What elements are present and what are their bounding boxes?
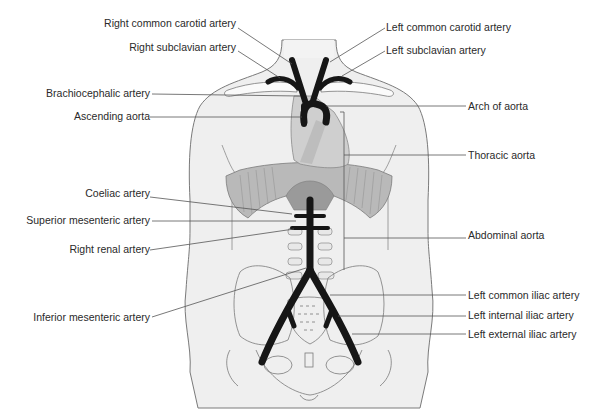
label-right-renal-artery: Right renal artery bbox=[69, 243, 150, 255]
label-ascending-aorta: Ascending aorta bbox=[74, 110, 150, 122]
label-abdominal-aorta: Abdominal aorta bbox=[468, 229, 544, 241]
label-thoracic-aorta: Thoracic aorta bbox=[468, 149, 535, 161]
label-left-common-carotid-artery: Left common carotid artery bbox=[386, 21, 511, 33]
label-left-common-iliac-artery: Left common iliac artery bbox=[468, 289, 579, 301]
label-inferior-mesenteric-artery: Inferior mesenteric artery bbox=[33, 311, 150, 323]
label-left-subclavian-artery: Left subclavian artery bbox=[386, 44, 486, 56]
label-right-common-carotid-artery: Right common carotid artery bbox=[104, 17, 236, 29]
label-left-external-iliac-artery: Left external iliac artery bbox=[468, 328, 577, 340]
artery-diagram: Right common carotid artery Right subcla… bbox=[0, 0, 604, 419]
label-coeliac-artery: Coeliac artery bbox=[85, 187, 150, 199]
label-left-internal-iliac-artery: Left internal iliac artery bbox=[468, 309, 574, 321]
label-arch-of-aorta: Arch of aorta bbox=[468, 100, 528, 112]
label-superior-mesenteric-artery: Superior mesenteric artery bbox=[26, 214, 150, 226]
trunk-illustration bbox=[0, 0, 604, 419]
label-brachiocephalic-artery: Brachiocephalic artery bbox=[46, 87, 150, 99]
label-right-subclavian-artery: Right subclavian artery bbox=[129, 41, 236, 53]
